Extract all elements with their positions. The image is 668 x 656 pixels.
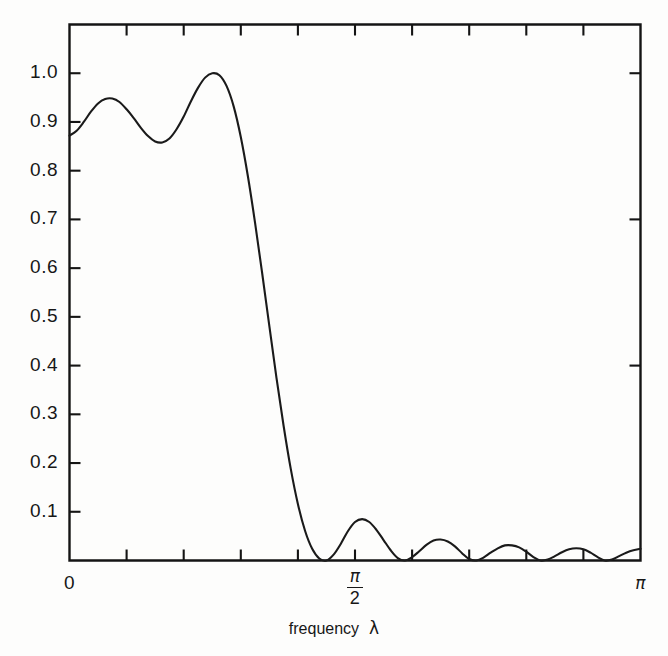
x-tick-label-half-pi: π 2	[325, 568, 385, 609]
x-tick-label-zero: 0	[50, 572, 90, 594]
y-tick-label: 0.4	[2, 354, 58, 376]
y-tick-label: 0.3	[2, 402, 58, 424]
plot-canvas	[0, 0, 668, 656]
x-axis-title-word: frequency	[289, 620, 359, 637]
x-tick-label-pi: π	[621, 572, 661, 594]
data-series-group	[70, 73, 641, 561]
axes-frame	[70, 25, 641, 561]
y-tick-label: 0.7	[2, 207, 58, 229]
y-tick-marks	[70, 73, 81, 512]
y-tick-label: 0.5	[2, 305, 58, 327]
pi-over-two-fraction: π 2	[347, 568, 364, 608]
y-tick-label: 0.6	[2, 256, 58, 278]
x-tick-marks	[127, 25, 641, 561]
response-curve	[70, 73, 641, 561]
fraction-denominator: 2	[347, 589, 364, 608]
y-tick-label: 0.8	[2, 159, 58, 181]
fraction-numerator: π	[347, 568, 364, 586]
y-tick-label: 0.2	[2, 451, 58, 473]
axes-box	[70, 25, 641, 561]
lambda-symbol: λ	[359, 618, 379, 638]
pi-symbol: π	[635, 573, 646, 593]
x-axis-title: frequencyλ	[0, 618, 668, 638]
figure-container: 0.10.20.30.40.50.60.70.80.91.0 0 π 2 π f…	[0, 0, 668, 656]
y-tick-label: 0.9	[2, 110, 58, 132]
y-tick-label: 0.1	[2, 500, 58, 522]
y-tick-label: 1.0	[2, 61, 58, 83]
